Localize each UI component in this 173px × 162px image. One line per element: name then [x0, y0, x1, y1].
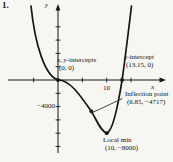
local-min-annotation-value: (10, −8000) — [103, 144, 138, 152]
inflection-annotation-value: (6.85, −4717) — [125, 98, 168, 106]
y-axis-label: y — [45, 1, 48, 9]
x-intercept-annotation-value: (13.15, 0) — [124, 61, 154, 69]
y-axis-arrow-icon — [56, 4, 61, 11]
inflection-annotation: Inflection point (6.85, −4717) — [125, 90, 168, 106]
x-intercept-point — [120, 78, 124, 82]
inflection-annotation-title: Inflection point — [125, 90, 168, 98]
y-tick-label-neg4000: −4000 — [32, 102, 55, 110]
function-graph-canvas — [0, 0, 173, 162]
x-intercept-annotation-title-rest: -intercept — [127, 53, 154, 61]
local-min-annotation: Local min (10, −8000) — [103, 136, 138, 152]
origin-intercept-point — [56, 78, 60, 82]
x-intercept-annotation-title: x-intercept — [124, 53, 154, 61]
intercepts-annotation-value: (0, 0) — [57, 64, 96, 72]
x-intercept-annotation: x-intercept (13.15, 0) — [124, 53, 154, 69]
intercepts-annotation: x, y-intercepts (0, 0) — [57, 56, 96, 72]
inflection-point — [89, 109, 93, 113]
x-tick-label-10: 10 — [103, 84, 110, 92]
intercepts-annotation-title-rest: -intercepts — [67, 56, 97, 64]
intercepts-annotation-title-italic: x, y — [57, 56, 67, 64]
local-min-point — [105, 131, 109, 135]
local-min-annotation-title: Local min — [103, 136, 138, 144]
problem-number: 1. — [2, 1, 9, 10]
intercepts-annotation-title: x, y-intercepts — [57, 56, 96, 64]
x-axis-arrow-icon — [160, 78, 167, 83]
